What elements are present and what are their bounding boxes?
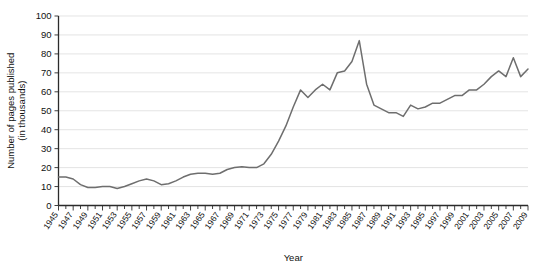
x-tick-label: 1951	[85, 210, 104, 231]
x-tick-label: 1959	[144, 210, 163, 231]
x-tick-label: 1947	[56, 210, 75, 231]
x-tick-label: 1975	[261, 210, 280, 231]
page-chart-container: 0102030405060708090100 19451947194919511…	[0, 0, 539, 268]
data-series-line	[59, 41, 529, 189]
x-tick-label: 2001	[452, 210, 471, 231]
x-tick-label: 1969	[217, 210, 236, 231]
y-tick-label: 60	[41, 86, 52, 97]
x-axis-ticks: 1945194719491951195319551957195919611963…	[41, 206, 530, 232]
x-tick-label: 1979	[291, 210, 310, 231]
x-tick-label: 1963	[173, 210, 192, 231]
x-tick-label: 1991	[379, 210, 398, 231]
x-tick-label: 1965	[188, 210, 207, 231]
x-tick-label: 1957	[129, 210, 148, 231]
line-chart: 0102030405060708090100 19451947194919511…	[0, 0, 539, 268]
x-tick-label: 1999	[437, 210, 456, 231]
y-tick-label: 80	[41, 48, 52, 59]
x-tick-label: 1993	[393, 210, 412, 231]
x-tick-label: 1995	[408, 210, 427, 231]
x-tick-label: 2007	[496, 210, 515, 231]
x-tick-label: 1953	[100, 210, 119, 231]
x-tick-label: 2005	[481, 210, 500, 231]
x-tick-label: 1989	[364, 210, 383, 231]
x-tick-label: 1985	[335, 210, 354, 231]
y-tick-label: 70	[41, 67, 52, 78]
x-tick-label: 1977	[276, 210, 295, 231]
x-tick-label: 1955	[114, 210, 133, 231]
gridlines	[59, 16, 529, 187]
x-tick-label: 1983	[320, 210, 339, 231]
x-tick-label: 1997	[423, 210, 442, 231]
y-tick-label: 30	[41, 143, 52, 154]
y-tick-label: 10	[41, 181, 52, 192]
x-tick-label: 1987	[349, 210, 368, 231]
y-axis-label-line2: (in thousands)	[16, 81, 27, 141]
x-axis-label: Year	[284, 252, 303, 263]
x-tick-label: 2003	[467, 210, 486, 231]
x-tick-label: 2009	[511, 210, 530, 231]
y-tick-label: 20	[41, 162, 52, 173]
x-tick-label: 1949	[70, 210, 89, 231]
y-axis-ticks: 0102030405060708090100	[36, 10, 59, 211]
x-tick-label: 1971	[232, 210, 251, 231]
y-tick-label: 40	[41, 124, 52, 135]
x-tick-label: 1973	[246, 210, 265, 231]
y-tick-label: 0	[46, 200, 51, 211]
y-tick-label: 90	[41, 29, 52, 40]
x-tick-label: 1967	[202, 210, 221, 231]
y-tick-label: 50	[41, 105, 52, 116]
x-tick-label: 1981	[305, 210, 324, 231]
y-axis-label-line1: Number of pages published	[5, 53, 16, 169]
x-tick-label: 1945	[41, 210, 60, 231]
y-tick-label: 100	[36, 10, 52, 21]
x-tick-label: 1961	[158, 210, 177, 231]
